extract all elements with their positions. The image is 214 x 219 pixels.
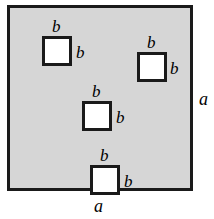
geometry-figure: b b b b b b b b a a	[0, 0, 214, 219]
label-a-bottom-side: a	[94, 197, 103, 215]
inner-square-4	[90, 165, 120, 195]
label-b-square4-top: b	[100, 147, 109, 164]
label-b-square3-right: b	[116, 109, 125, 126]
label-b-square4-right: b	[124, 173, 133, 190]
label-b-square1-top: b	[52, 18, 61, 35]
label-a-right-side: a	[199, 90, 208, 108]
inner-square-3	[82, 101, 112, 131]
inner-square-1	[42, 36, 72, 66]
label-b-square3-top: b	[92, 83, 101, 100]
inner-square-2	[137, 52, 167, 82]
label-b-square2-top: b	[147, 34, 156, 51]
label-b-square1-right: b	[76, 44, 85, 61]
outer-square: b b b b b b b b	[7, 5, 193, 191]
label-b-square2-right: b	[170, 60, 179, 77]
